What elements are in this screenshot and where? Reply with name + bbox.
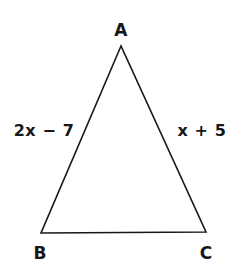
vertex-label-c: C <box>200 245 213 262</box>
vertex-label-b: B <box>33 245 46 262</box>
geometry-figure: A B C 2x − 7 x + 5 <box>0 0 239 272</box>
side-label-ab: 2x − 7 <box>14 123 75 139</box>
side-label-ac: x + 5 <box>178 123 227 139</box>
vertex-label-a: A <box>114 22 127 39</box>
